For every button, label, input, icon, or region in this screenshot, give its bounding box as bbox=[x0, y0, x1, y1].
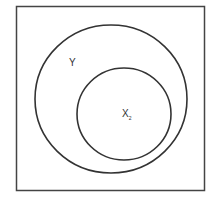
set-y-circle bbox=[35, 25, 187, 173]
set-y-label: Y bbox=[69, 57, 76, 68]
set-y-label-text: Y bbox=[69, 57, 76, 68]
venn-diagram bbox=[0, 0, 216, 201]
set-x2-label: X2 bbox=[122, 108, 131, 121]
set-x2-subscript: 2 bbox=[129, 115, 132, 121]
universe-box bbox=[17, 7, 205, 191]
set-x2-label-text: X bbox=[122, 108, 129, 119]
